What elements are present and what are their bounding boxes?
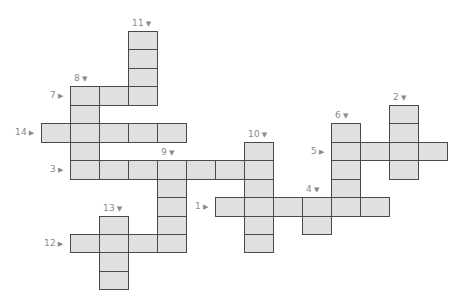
crossword-cell[interactable] xyxy=(244,160,274,180)
arrow-down-icon: ▼ xyxy=(314,186,320,194)
crossword-cell[interactable] xyxy=(70,86,100,106)
crossword-cell[interactable] xyxy=(99,86,129,106)
arrow-down-icon: ▼ xyxy=(262,131,268,139)
clue-number: 1 xyxy=(195,201,201,211)
arrow-down-icon: ▼ xyxy=(146,20,152,28)
crossword-cell[interactable] xyxy=(99,271,129,290)
clue-number-10-down: 10▼ xyxy=(248,129,267,140)
clue-number: 12 xyxy=(44,238,56,248)
crossword-cell[interactable] xyxy=(99,160,129,180)
crossword-cell[interactable] xyxy=(244,216,274,235)
crossword-cell[interactable] xyxy=(360,197,390,217)
crossword-cell[interactable] xyxy=(128,160,158,180)
clue-number: 10 xyxy=(248,129,260,139)
clue-number: 4 xyxy=(306,184,312,194)
arrow-right-icon: ▶ xyxy=(203,203,209,211)
arrow-right-icon: ▶ xyxy=(58,166,64,174)
crossword-cell[interactable] xyxy=(70,142,100,161)
crossword-cell[interactable] xyxy=(389,142,419,161)
arrow-down-icon: ▼ xyxy=(401,94,407,102)
clue-number: 8 xyxy=(74,73,80,83)
crossword-cell[interactable] xyxy=(244,142,274,161)
arrow-down-icon: ▼ xyxy=(343,112,349,120)
crossword-cell[interactable] xyxy=(128,31,158,50)
crossword-cell[interactable] xyxy=(128,49,158,69)
crossword-cell[interactable] xyxy=(389,123,419,143)
clue-number: 14 xyxy=(15,127,27,137)
crossword-cell[interactable] xyxy=(157,234,187,253)
crossword-grid: 1▶2▼3▶4▼5▶6▼7▶8▼9▼10▼11▼12▶13▼14▶ xyxy=(0,0,469,303)
crossword-cell[interactable] xyxy=(389,105,419,124)
crossword-cell[interactable] xyxy=(157,123,187,143)
clue-number: 5 xyxy=(311,146,317,156)
crossword-cell[interactable] xyxy=(418,142,448,161)
crossword-cell[interactable] xyxy=(331,123,361,143)
crossword-cell[interactable] xyxy=(70,123,100,143)
crossword-cell[interactable] xyxy=(99,234,129,253)
clue-number-11-down: 11▼ xyxy=(132,18,151,29)
arrow-right-icon: ▶ xyxy=(58,240,64,248)
arrow-down-icon: ▼ xyxy=(117,205,123,213)
crossword-cell[interactable] xyxy=(157,179,187,198)
crossword-cell[interactable] xyxy=(331,197,361,217)
clue-number-4-down: 4▼ xyxy=(306,184,320,195)
crossword-cell[interactable] xyxy=(157,160,187,180)
crossword-cell[interactable] xyxy=(157,216,187,235)
clue-number: 9 xyxy=(161,147,167,157)
clue-number: 11 xyxy=(132,18,144,28)
crossword-cell[interactable] xyxy=(302,197,332,217)
clue-number-6-down: 6▼ xyxy=(335,110,349,121)
clue-number-5-across: 5▶ xyxy=(311,146,325,157)
clue-number: 13 xyxy=(103,203,115,213)
crossword-cell[interactable] xyxy=(70,160,100,180)
clue-number-2-down: 2▼ xyxy=(393,92,407,103)
crossword-cell[interactable] xyxy=(273,197,303,217)
crossword-cell[interactable] xyxy=(70,234,100,253)
clue-number-3-across: 3▶ xyxy=(50,164,64,175)
arrow-right-icon: ▶ xyxy=(319,148,325,156)
crossword-cell[interactable] xyxy=(157,197,187,217)
crossword-cell[interactable] xyxy=(215,197,245,217)
clue-number: 7 xyxy=(50,90,56,100)
clue-number: 3 xyxy=(50,164,56,174)
clue-number-12-across: 12▶ xyxy=(44,238,63,249)
crossword-cell[interactable] xyxy=(244,197,274,217)
crossword-cell[interactable] xyxy=(99,123,129,143)
clue-number-7-across: 7▶ xyxy=(50,90,64,101)
crossword-cell[interactable] xyxy=(70,105,100,124)
crossword-cell[interactable] xyxy=(244,234,274,253)
crossword-cell[interactable] xyxy=(302,216,332,235)
crossword-cell[interactable] xyxy=(128,86,158,106)
crossword-cell[interactable] xyxy=(41,123,71,143)
arrow-right-icon: ▶ xyxy=(29,129,35,137)
clue-number-1-across: 1▶ xyxy=(195,201,209,212)
clue-number-13-down: 13▼ xyxy=(103,203,122,214)
clue-number: 6 xyxy=(335,110,341,120)
crossword-cell[interactable] xyxy=(331,160,361,180)
clue-number: 2 xyxy=(393,92,399,102)
arrow-right-icon: ▶ xyxy=(58,92,64,100)
crossword-cell[interactable] xyxy=(99,252,129,272)
crossword-cell[interactable] xyxy=(244,179,274,198)
crossword-cell[interactable] xyxy=(331,179,361,198)
clue-number-8-down: 8▼ xyxy=(74,73,88,84)
crossword-cell[interactable] xyxy=(128,234,158,253)
crossword-cell[interactable] xyxy=(389,160,419,180)
crossword-cell[interactable] xyxy=(331,142,361,161)
crossword-cell[interactable] xyxy=(99,216,129,235)
arrow-down-icon: ▼ xyxy=(169,149,175,157)
clue-number-14-across: 14▶ xyxy=(15,127,34,138)
arrow-down-icon: ▼ xyxy=(82,75,88,83)
crossword-cell[interactable] xyxy=(360,142,390,161)
clue-number-9-down: 9▼ xyxy=(161,147,175,158)
crossword-cell[interactable] xyxy=(128,123,158,143)
crossword-cell[interactable] xyxy=(215,160,245,180)
crossword-cell[interactable] xyxy=(128,68,158,87)
crossword-cell[interactable] xyxy=(186,160,216,180)
